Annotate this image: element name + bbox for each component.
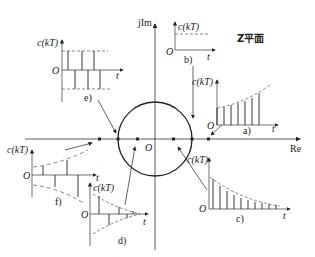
svg-text:t: t xyxy=(143,216,146,227)
imag-axis-label: jIm xyxy=(137,17,152,28)
arrow-e xyxy=(98,100,116,133)
svg-text:a): a) xyxy=(243,125,251,137)
svg-text:t: t xyxy=(272,123,275,134)
main-axes xyxy=(25,24,300,250)
real-axis-label: Re xyxy=(290,143,302,154)
svg-text:c(kT): c(kT) xyxy=(187,154,209,166)
svg-text:c(kT): c(kT) xyxy=(7,144,29,156)
svg-text:t: t xyxy=(207,51,210,62)
subplot-a: c(kT) O t a) xyxy=(192,76,278,137)
plane-title: Z平面 xyxy=(237,33,264,44)
svg-text:f): f) xyxy=(55,196,62,208)
svg-text:t: t xyxy=(283,210,286,221)
pole-e xyxy=(117,138,120,141)
svg-text:d): d) xyxy=(118,235,126,247)
svg-text:c(kT): c(kT) xyxy=(178,21,200,33)
subplot-f: c(kT) O t f) xyxy=(7,144,99,208)
pole-d xyxy=(136,138,139,141)
svg-text:c): c) xyxy=(236,213,244,225)
svg-text:O: O xyxy=(207,120,214,131)
origin-label: O xyxy=(145,142,152,153)
svg-text:c(kT): c(kT) xyxy=(37,37,59,49)
svg-text:O: O xyxy=(81,209,88,220)
svg-text:c(kT): c(kT) xyxy=(93,182,115,194)
svg-text:e): e) xyxy=(84,92,92,104)
svg-text:O: O xyxy=(52,65,59,76)
svg-text:O: O xyxy=(199,203,206,214)
pole-f xyxy=(98,138,101,141)
svg-text:c(kT): c(kT) xyxy=(192,76,214,88)
z-plane-diagram: jIm Re O Z平面 c(kT) O xyxy=(0,0,315,257)
svg-text:b): b) xyxy=(184,54,192,66)
arrow-f xyxy=(65,143,92,150)
pole-a xyxy=(207,138,210,141)
svg-text:t: t xyxy=(116,70,119,81)
arrow-d xyxy=(125,147,135,205)
subplot-e: c(kT) O t e) xyxy=(37,37,123,104)
svg-text:O: O xyxy=(166,46,173,57)
pole-b xyxy=(191,138,194,141)
subplot-d: c(kT) O t d) xyxy=(81,182,148,247)
pole-c xyxy=(172,138,175,141)
subplot-b: c(kT) O t b) xyxy=(166,21,215,66)
svg-text:O: O xyxy=(23,170,30,181)
subplot-c: c(kT) O t c) xyxy=(187,154,290,225)
